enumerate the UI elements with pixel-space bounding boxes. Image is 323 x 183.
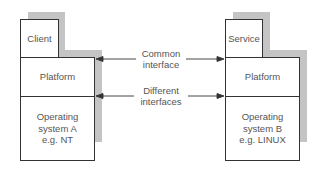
different-label-line-1: Different (135, 85, 187, 96)
diagram-canvas: Client Platform Operating system A e.g. … (0, 0, 323, 183)
different-interfaces-label: Different interfaces (134, 85, 188, 107)
common-interface-label: Common interface (136, 48, 186, 70)
different-label-line-2: interfaces (135, 96, 187, 107)
common-label-line-2: interface (137, 59, 185, 70)
common-label-line-1: Common (137, 48, 185, 59)
